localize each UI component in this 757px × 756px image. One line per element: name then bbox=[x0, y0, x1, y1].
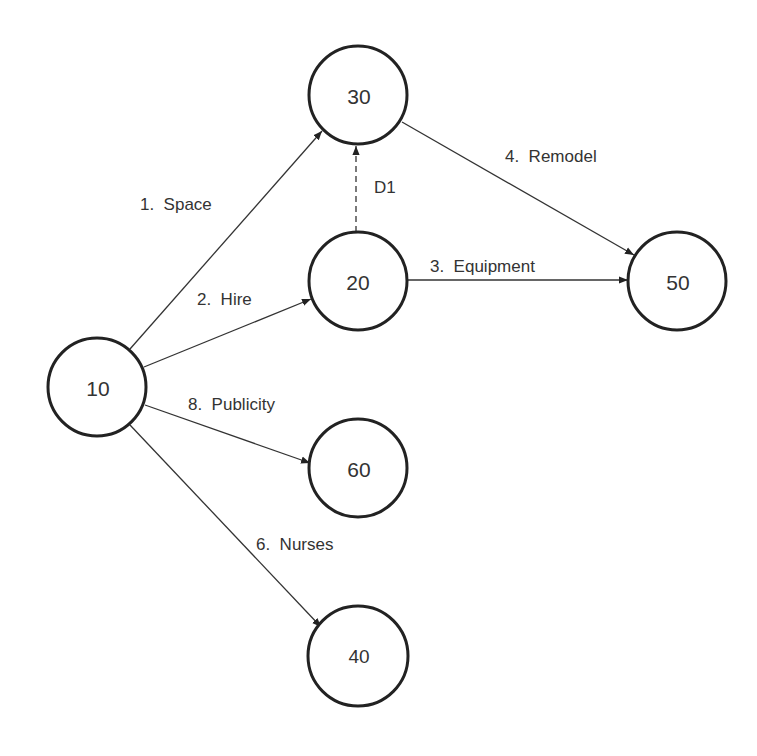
edge-space: 1. Space bbox=[130, 131, 322, 349]
edge-space-label: 1. Space bbox=[140, 195, 212, 214]
edge-nurses-label: 6. Nurses bbox=[256, 535, 333, 554]
edge-hire: 2. Hire bbox=[144, 290, 311, 367]
edge-space-arrow bbox=[130, 131, 322, 349]
node-30: 30 bbox=[309, 46, 407, 144]
edge-remodel-arrow bbox=[402, 122, 634, 255]
edge-equipment: 3. Equipment bbox=[408, 257, 628, 280]
node-60: 60 bbox=[309, 419, 407, 517]
node-20-label: 20 bbox=[346, 271, 369, 294]
node-40: 40 bbox=[308, 606, 408, 706]
edge-hire-label: 2. Hire bbox=[197, 290, 252, 309]
node-10-label: 10 bbox=[86, 377, 109, 400]
node-20: 20 bbox=[309, 232, 407, 330]
node-10: 10 bbox=[48, 338, 146, 436]
edge-nurses: 6. Nurses bbox=[130, 425, 333, 627]
edge-publicity: 8. Publicity bbox=[145, 395, 310, 463]
edge-hire-arrow bbox=[144, 299, 311, 367]
edge-nurses-arrow bbox=[130, 425, 321, 627]
node-60-label: 60 bbox=[347, 458, 370, 481]
node-50: 50 bbox=[628, 232, 726, 330]
edge-remodel: 4. Remodel bbox=[402, 122, 634, 255]
edge-publicity-label: 8. Publicity bbox=[188, 395, 275, 414]
edge-equipment-label: 3. Equipment bbox=[430, 257, 535, 276]
edge-dummy-label: D1 bbox=[374, 178, 396, 197]
node-50-label: 50 bbox=[666, 271, 689, 294]
edge-dummy-d1: D1 bbox=[356, 146, 396, 232]
edge-remodel-label: 4. Remodel bbox=[505, 147, 597, 166]
node-40-label: 40 bbox=[348, 646, 369, 667]
node-30-label: 30 bbox=[347, 85, 370, 108]
network-diagram: 1. Space 2. Hire 3. Equipment 4. Remodel… bbox=[0, 0, 757, 756]
